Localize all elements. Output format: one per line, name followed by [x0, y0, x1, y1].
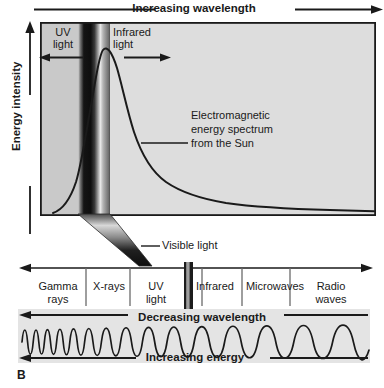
band-label-x-rays: X-rays — [88, 280, 130, 293]
infrared-light-label-line1: Infrared — [113, 26, 175, 39]
uv-direction-arrow — [39, 52, 85, 63]
band-label-infrared: Infrared — [190, 280, 240, 293]
increasing-energy-label: Increasing energy — [128, 351, 262, 364]
band-label-radio-waves-line1: Radio — [302, 280, 360, 293]
figure-panel-b: Increasing wavelength Energy intensity — [0, 0, 384, 388]
energy-intensity-axis — [22, 21, 38, 234]
panel-label: B — [17, 369, 26, 382]
band-label-uv-light-line1: UV — [132, 280, 180, 293]
band-label-gamma-rays-line2: rays — [30, 293, 86, 306]
curve-annotation-line2: energy spectrum — [191, 123, 273, 136]
energy-intensity-label: Energy intensity — [10, 61, 23, 151]
infrared-direction-arrow — [124, 52, 172, 63]
infrared-light-label-line2: light — [113, 38, 175, 51]
increasing-wavelength-label: Increasing wavelength — [128, 2, 260, 15]
curve-annotation-line3: from the Sun — [191, 137, 254, 150]
decreasing-wavelength-label: Decreasing wavelength — [128, 311, 276, 324]
band-label-gamma-rays-line1: Gamma — [30, 280, 86, 293]
band-label-radio-waves-line2: waves — [302, 293, 360, 306]
uv-light-label-line2: light — [44, 38, 82, 51]
uv-light-label-line1: UV — [44, 26, 82, 39]
band-label-microwaves: Microwaves — [240, 280, 310, 293]
band-label-uv-light-line2: light — [132, 293, 180, 306]
curve-annotation-line1: Electromagnetic — [191, 109, 270, 122]
visible-light-label: Visible light — [162, 239, 217, 252]
